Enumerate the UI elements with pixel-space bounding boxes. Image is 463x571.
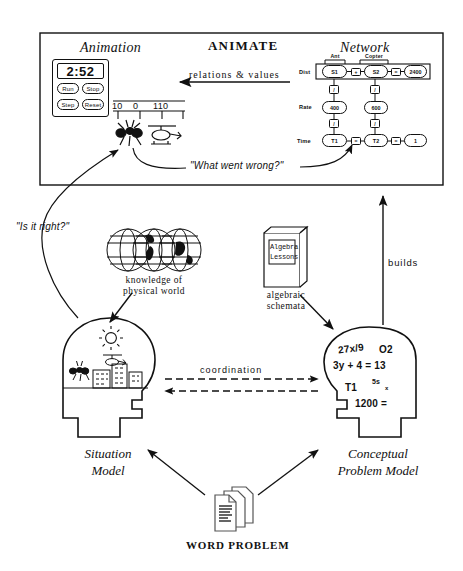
animate-header: ANIMATE <box>208 39 278 52</box>
ant-figure-animation <box>116 120 142 146</box>
network-node-time-copter[interactable]: T2 <box>364 134 388 147</box>
is-it-right-label: "Is it right?" <box>16 222 69 232</box>
word-problem-label: WORD PROBLEM <box>186 540 289 551</box>
globes-icon <box>107 229 201 271</box>
equation-3: 3y + 4 = 13 <box>333 361 386 371</box>
network-vop-ant-2[interactable]: / <box>329 119 339 128</box>
stop-button[interactable]: Stop <box>82 83 104 94</box>
network-op-dist-2[interactable]: = <box>391 68 401 76</box>
network-vop-copter-2[interactable]: / <box>370 119 380 128</box>
network-node-dist-total[interactable]: 2400 <box>404 65 427 78</box>
conceptual-model-label-line2: Problem Model <box>318 463 438 479</box>
network-op-time-2[interactable]: = <box>391 137 401 145</box>
reset-button[interactable]: Reset <box>82 99 104 110</box>
helicopter-figure-animation <box>148 126 181 144</box>
network-row-label-rate: Rate <box>299 104 312 110</box>
number-line-label-0: 10 <box>112 101 123 111</box>
network-col-header-copter: Copter <box>360 53 388 59</box>
network-node-rate-copter[interactable]: 600 <box>364 101 388 114</box>
city-buildings-icon-situation <box>63 364 148 388</box>
book-cover-line1: Algebra <box>270 242 298 252</box>
book-caption-line2: schemata <box>236 302 336 312</box>
network-op-dist-1[interactable]: + <box>351 68 361 76</box>
knowledge-caption-line1: knowledge of <box>104 276 204 286</box>
network-row-label-dist: Dist <box>299 69 310 75</box>
network-vop-ant-1[interactable]: / <box>329 85 339 94</box>
conceptual-model-label-line1: Conceptual <box>318 446 438 462</box>
network-node-time-total[interactable]: 1 <box>404 134 427 147</box>
book-cover-line2: Lessons <box>270 252 298 262</box>
animation-timer: 2:52 <box>57 63 104 79</box>
what-went-wrong-label: "What went wrong?" <box>190 161 284 171</box>
run-button[interactable]: Run <box>57 83 79 94</box>
step-button[interactable]: Step <box>57 99 79 110</box>
network-node-rate-ant[interactable]: 400 <box>322 101 347 114</box>
number-line-label-2: 110 <box>153 101 168 111</box>
equation-2: O2 <box>379 345 393 355</box>
situation-model-label-line1: Situation <box>58 446 158 462</box>
animation-panel-title: Animation <box>80 41 141 55</box>
network-node-dist-copter[interactable]: S2 <box>364 65 388 78</box>
equation-6: x <box>385 385 389 391</box>
network-row-label-time: Time <box>297 138 311 144</box>
situation-model-head <box>63 318 155 437</box>
book-caption-line1: algebraic <box>236 291 336 301</box>
wordproblem-to-conceptual-arrow <box>258 450 318 495</box>
equation-5: 5s <box>372 378 380 385</box>
situation-model-label-line2: Model <box>58 463 158 479</box>
network-op-time-1[interactable]: = <box>351 137 361 145</box>
network-col-header-ant: Ant <box>325 53 345 59</box>
equation-4: T1 <box>345 383 357 393</box>
what-went-wrong-path-right <box>300 145 352 167</box>
number-line-label-1: 0 <box>133 101 138 111</box>
diagram-canvas: Animation ANIMATE Network relations & va… <box>0 0 463 571</box>
network-vop-copter-1[interactable]: / <box>370 85 380 94</box>
network-node-dist-ant[interactable]: S1 <box>322 65 347 78</box>
knowledge-caption-line2: physical world <box>104 287 204 297</box>
relations-values-label: relations & values <box>189 70 280 80</box>
equation-7: 1200 = <box>355 399 387 409</box>
word-problem-icon <box>215 487 253 531</box>
sun-icon-situation <box>99 326 123 350</box>
network-node-time-ant[interactable]: T1 <box>322 134 347 147</box>
coordination-label: coordination <box>200 366 262 375</box>
number-line-ticks <box>118 111 183 119</box>
ant-icon-situation <box>69 361 89 381</box>
builds-label: builds <box>388 258 418 268</box>
what-went-wrong-path-left <box>133 148 186 168</box>
